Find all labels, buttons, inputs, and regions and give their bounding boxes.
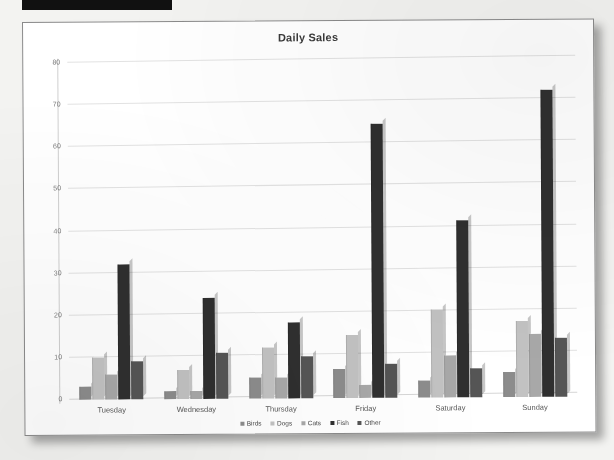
bar-fish-friday[interactable] bbox=[370, 124, 385, 398]
legend-swatch-icon bbox=[240, 421, 244, 425]
bar-rect bbox=[371, 124, 385, 398]
bar-rect bbox=[177, 370, 189, 400]
bar-cats-saturday[interactable] bbox=[444, 355, 457, 397]
x-axis-label: Tuesday bbox=[69, 405, 154, 415]
legend-item-cats[interactable]: Cats bbox=[301, 419, 321, 426]
legend-swatch-icon bbox=[301, 421, 305, 425]
bar-rect bbox=[385, 364, 397, 398]
bar-rect bbox=[92, 357, 104, 399]
bar-cats-sunday[interactable] bbox=[528, 334, 541, 397]
y-tick-label: 40 bbox=[53, 227, 61, 234]
bar-fish-saturday[interactable] bbox=[456, 220, 470, 397]
bar-dogs-tuesday[interactable] bbox=[92, 357, 105, 399]
legend-item-fish[interactable]: Fish bbox=[330, 419, 349, 426]
legend-item-dogs[interactable]: Dogs bbox=[271, 419, 293, 426]
bar-rect bbox=[190, 390, 202, 398]
bar-dogs-saturday[interactable] bbox=[430, 309, 444, 398]
bar-rect bbox=[288, 322, 300, 398]
bar-rect bbox=[216, 352, 228, 398]
y-tick-label: 80 bbox=[52, 58, 60, 65]
bar-birds-tuesday[interactable] bbox=[79, 387, 92, 400]
bar-rect bbox=[555, 338, 567, 397]
bar-rect bbox=[333, 369, 345, 399]
bar-rect bbox=[516, 321, 528, 397]
legend-swatch-icon bbox=[330, 421, 334, 425]
bar-dogs-sunday[interactable] bbox=[515, 321, 528, 397]
y-tick-label: 10 bbox=[54, 353, 62, 360]
bar-birds-sunday[interactable] bbox=[502, 372, 515, 397]
x-axis-label: Sunday bbox=[493, 403, 578, 413]
bar-group bbox=[321, 61, 408, 399]
legend-swatch-icon bbox=[358, 420, 362, 424]
x-axis-label: Saturday bbox=[408, 403, 493, 413]
bar-rect bbox=[503, 372, 515, 397]
legend-label: Other bbox=[364, 419, 380, 426]
legend-label: Dogs bbox=[277, 419, 292, 426]
bar-rect bbox=[203, 298, 216, 399]
bar-dogs-thursday[interactable] bbox=[261, 348, 274, 399]
x-axis-labels: TuesdayWednesdayThursdayFridaySaturdaySu… bbox=[69, 403, 577, 415]
bar-other-saturday[interactable] bbox=[470, 368, 483, 398]
bar-group bbox=[237, 61, 324, 399]
x-axis-label: Friday bbox=[323, 404, 408, 414]
bar-other-friday[interactable] bbox=[385, 364, 398, 398]
bar-rect bbox=[431, 309, 444, 398]
bar-rect bbox=[249, 377, 261, 398]
legend-label: Cats bbox=[308, 419, 321, 426]
bar-rect bbox=[360, 385, 372, 398]
scanned-page-background: Daily Sales 01020304050607080 TuesdayWed… bbox=[0, 0, 614, 460]
legend-item-other[interactable]: Other bbox=[358, 419, 381, 426]
bar-birds-saturday[interactable] bbox=[418, 381, 431, 398]
y-tick-label: 70 bbox=[53, 100, 61, 107]
y-tick-label: 30 bbox=[54, 269, 62, 276]
bar-cats-tuesday[interactable] bbox=[105, 374, 118, 399]
bar-rect bbox=[301, 356, 313, 398]
bar-group bbox=[67, 62, 154, 400]
bar-rect bbox=[105, 374, 117, 399]
bar-rect bbox=[346, 335, 358, 398]
bar-birds-thursday[interactable] bbox=[248, 377, 261, 398]
plot-area: 01020304050607080 bbox=[67, 60, 577, 400]
bar-dogs-wednesday[interactable] bbox=[177, 369, 190, 399]
bar-other-tuesday[interactable] bbox=[131, 361, 144, 399]
bar-rect bbox=[456, 220, 469, 397]
bar-rect bbox=[275, 377, 287, 398]
y-tick-label: 20 bbox=[54, 311, 62, 318]
bar-rect bbox=[80, 387, 92, 400]
bar-group bbox=[491, 60, 578, 398]
chart-card: Daily Sales 01020304050607080 TuesdayWed… bbox=[22, 19, 597, 436]
bar-dogs-friday[interactable] bbox=[346, 335, 359, 398]
bar-cats-friday[interactable] bbox=[359, 385, 372, 398]
bar-fish-tuesday[interactable] bbox=[117, 265, 131, 400]
bar-group bbox=[152, 62, 239, 400]
x-axis-label: Thursday bbox=[239, 404, 324, 414]
bar-group bbox=[406, 60, 493, 398]
bar-birds-wednesday[interactable] bbox=[164, 391, 177, 400]
legend-item-birds[interactable]: Birds bbox=[240, 420, 261, 427]
bar-rect bbox=[444, 355, 456, 397]
bar-cats-wednesday[interactable] bbox=[190, 390, 203, 399]
y-tick-label: 0 bbox=[58, 395, 62, 402]
bar-other-sunday[interactable] bbox=[554, 338, 567, 397]
bar-birds-friday[interactable] bbox=[333, 369, 346, 399]
bar-rect bbox=[118, 265, 131, 400]
x-axis-label: Wednesday bbox=[154, 405, 239, 415]
legend-label: Fish bbox=[337, 419, 349, 426]
y-tick-label: 50 bbox=[53, 185, 61, 192]
y-tick-label: 60 bbox=[53, 143, 61, 150]
bar-fish-thursday[interactable] bbox=[287, 322, 300, 398]
bar-other-thursday[interactable] bbox=[300, 356, 313, 398]
bar-cats-thursday[interactable] bbox=[274, 377, 287, 398]
chart-legend: BirdsDogsCatsFishOther bbox=[25, 418, 595, 428]
legend-label: Birds bbox=[247, 420, 262, 427]
bar-rect bbox=[262, 348, 274, 399]
redaction-bar bbox=[22, 0, 172, 10]
bar-fish-wednesday[interactable] bbox=[202, 298, 216, 399]
bar-rect bbox=[418, 381, 430, 398]
bar-groups bbox=[67, 60, 577, 400]
legend-swatch-icon bbox=[271, 421, 275, 425]
bar-other-wednesday[interactable] bbox=[216, 352, 229, 398]
bar-rect bbox=[540, 89, 554, 397]
bar-rect bbox=[131, 361, 143, 399]
bar-fish-sunday[interactable] bbox=[540, 89, 555, 397]
